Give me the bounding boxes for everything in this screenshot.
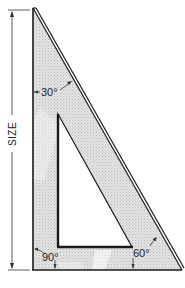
arrow-down-icon (10, 263, 14, 269)
angle-30-label: 30° (41, 86, 58, 98)
angle-60-label: 60° (133, 247, 150, 259)
triangle-diagram: SIZE 30° 90° 60° (0, 0, 185, 288)
angle-90-label: 90° (42, 251, 59, 263)
arrow-up-icon (10, 11, 14, 17)
size-label: SIZE (7, 122, 18, 146)
